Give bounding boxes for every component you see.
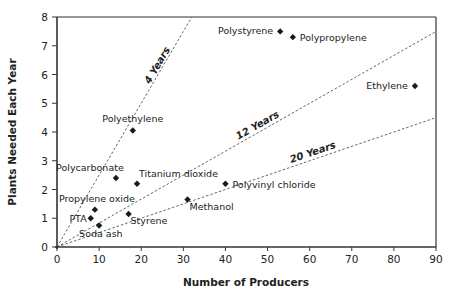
data-point-label: Methanol bbox=[190, 201, 234, 212]
data-point: Propylene oxide bbox=[59, 193, 135, 213]
reference-lines: 4 Years12 Years20 Years bbox=[57, 17, 436, 247]
data-point-label: Ethylene bbox=[366, 80, 408, 91]
y-tick-label: 6 bbox=[41, 69, 48, 81]
data-point-label: Titanium dioxide bbox=[138, 168, 218, 179]
chart-canvas: 4 Years12 Years20 Years 0102030405060708… bbox=[0, 0, 454, 293]
data-point: Polystyrene bbox=[218, 25, 283, 36]
diamond-marker-icon bbox=[277, 28, 283, 34]
x-tick-label: 60 bbox=[303, 253, 316, 265]
data-point: Styrene bbox=[125, 211, 167, 226]
data-point-label: Propylene oxide bbox=[59, 193, 135, 204]
data-point-label: Styrene bbox=[131, 215, 168, 226]
y-tick-label: 7 bbox=[41, 40, 48, 52]
x-tick-label: 50 bbox=[261, 253, 274, 265]
diamond-marker-icon bbox=[134, 181, 140, 187]
reference-line-label: 4 Years bbox=[142, 45, 173, 87]
data-point: PTA bbox=[69, 213, 93, 224]
x-tick-label: 10 bbox=[92, 253, 105, 265]
data-point: Ethylene bbox=[366, 80, 418, 91]
data-point-label: Soda ash bbox=[79, 228, 123, 239]
reference-line-label: 20 Years bbox=[288, 139, 337, 165]
scatter-chart: 4 Years12 Years20 Years 0102030405060708… bbox=[0, 0, 454, 293]
diamond-marker-icon bbox=[130, 127, 136, 133]
data-point-label: Polypropylene bbox=[300, 32, 367, 43]
x-axis-title: Number of Producers bbox=[183, 276, 309, 288]
data-point: Polyvinyl chloride bbox=[222, 179, 315, 190]
data-point-label: Polycarbonate bbox=[56, 162, 124, 173]
data-point-label: Polyethylene bbox=[102, 113, 163, 124]
data-point: Polycarbonate bbox=[56, 162, 124, 181]
data-point: Soda ash bbox=[79, 222, 123, 239]
x-tick-label: 40 bbox=[219, 253, 232, 265]
y-axis-title: Plants Needed Each Year bbox=[6, 58, 18, 206]
diamond-marker-icon bbox=[412, 83, 418, 89]
y-tick-label: 1 bbox=[41, 212, 48, 224]
data-point: Polyethylene bbox=[102, 113, 163, 134]
y-tick-label: 3 bbox=[41, 155, 48, 167]
x-tick-label: 0 bbox=[54, 253, 61, 265]
diamond-marker-icon bbox=[222, 181, 228, 187]
y-tick-label: 0 bbox=[41, 241, 48, 253]
reference-line-label: 12 Years bbox=[234, 108, 281, 141]
data-point-label: Polystyrene bbox=[218, 25, 273, 36]
data-point-label: PTA bbox=[69, 213, 87, 224]
y-tick-label: 2 bbox=[41, 184, 48, 196]
y-tick-label: 4 bbox=[41, 126, 48, 138]
reference-line bbox=[57, 31, 436, 247]
data-point: Methanol bbox=[184, 196, 233, 211]
data-point: Polypropylene bbox=[290, 32, 367, 43]
x-tick-label: 20 bbox=[135, 253, 148, 265]
x-tick-label: 90 bbox=[429, 253, 442, 265]
diamond-marker-icon bbox=[92, 206, 98, 212]
x-tick-label: 30 bbox=[177, 253, 190, 265]
x-tick-label: 80 bbox=[387, 253, 400, 265]
data-point: Titanium dioxide bbox=[134, 168, 218, 187]
y-tick-label: 5 bbox=[41, 97, 48, 109]
diamond-marker-icon bbox=[290, 34, 296, 40]
diamond-marker-icon bbox=[87, 215, 93, 221]
data-point-label: Polyvinyl chloride bbox=[232, 179, 315, 190]
diamond-marker-icon bbox=[113, 175, 119, 181]
x-tick-label: 70 bbox=[345, 253, 358, 265]
y-tick-label: 8 bbox=[41, 11, 48, 23]
